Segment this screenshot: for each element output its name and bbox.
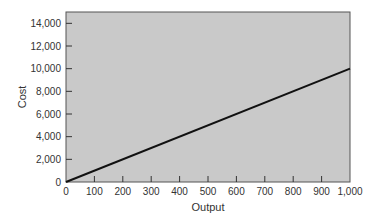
y-tick-label: 14,000 [30, 18, 61, 29]
y-axis-label: Cost [16, 86, 28, 109]
plot-area [66, 12, 350, 182]
x-tick-label: 800 [285, 186, 302, 197]
y-tick-label: 8,000 [36, 86, 61, 97]
x-tick-label: 0 [63, 186, 69, 197]
y-tick-label: 4,000 [36, 131, 61, 142]
y-tick-label: 2,000 [36, 154, 61, 165]
y-tick-label: 10,000 [30, 63, 61, 74]
x-tick-label: 600 [228, 186, 245, 197]
x-tick-label: 100 [86, 186, 103, 197]
x-tick-label: 300 [143, 186, 160, 197]
x-tick-label: 500 [200, 186, 217, 197]
x-axis-label: Output [191, 201, 224, 213]
x-tick-label: 400 [171, 186, 188, 197]
x-tick-label: 700 [256, 186, 273, 197]
y-tick-label: 6,000 [36, 109, 61, 120]
x-tick-label: 200 [114, 186, 131, 197]
x-tick-label: 1,000 [337, 186, 362, 197]
x-tick-label: 900 [313, 186, 330, 197]
y-tick-label: 0 [55, 177, 61, 188]
y-tick-label: 12,000 [30, 41, 61, 52]
chart: 02,0004,0006,0008,00010,00012,00014,000 … [0, 0, 375, 224]
